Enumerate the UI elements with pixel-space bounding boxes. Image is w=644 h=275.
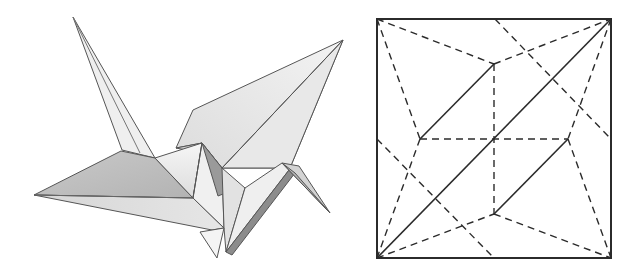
back-wing [73, 17, 155, 158]
crease-pattern-diagram [360, 0, 644, 275]
crane-neck-head [226, 163, 330, 255]
origami-crane-illustration [0, 0, 360, 275]
figure [0, 0, 644, 275]
